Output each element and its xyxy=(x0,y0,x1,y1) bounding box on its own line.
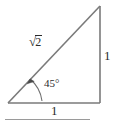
angle-measure-label: 45° xyxy=(44,78,59,89)
hypotenuse-length-label: √2 xyxy=(29,35,42,49)
radicand-value: 2 xyxy=(35,35,42,49)
base-leg-length-label: 1 xyxy=(51,104,58,117)
triangle-drawing xyxy=(0,0,115,126)
square-root-expression: √2 xyxy=(29,35,42,49)
bottom-divider-rule xyxy=(5,119,90,120)
geometry-figure: √2 1 1 45° xyxy=(0,0,115,126)
vertical-leg-length-label: 1 xyxy=(104,49,111,62)
